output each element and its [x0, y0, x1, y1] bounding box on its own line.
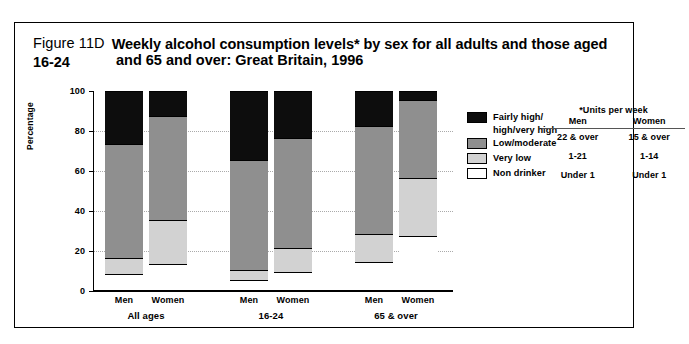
bar-segment-fairly-high — [355, 91, 393, 127]
bar-segment-fairly-high — [105, 91, 143, 145]
legend-swatch-fairly-high — [467, 112, 487, 123]
figure-heading: Figure 11DWeekly alcohol consumption lev… — [33, 35, 619, 71]
bar-segment-fairly-high — [149, 91, 187, 117]
y-tick-label: 100 — [70, 86, 85, 96]
legend-swatch-non-drinker — [467, 168, 487, 179]
y-tick-label: 80 — [75, 126, 85, 136]
units-table-rows: 22 & over15 & over1-211-14Under 1Under 1 — [542, 132, 689, 180]
legend-swatch-very-low — [467, 153, 487, 164]
x-axis-line — [93, 290, 453, 291]
bar-segment-low-moderate — [149, 117, 187, 221]
bar-segment-non-drinker — [149, 265, 187, 291]
figure-title-line2: and 65 and over: Great Britain, 1996 — [116, 52, 363, 68]
units-cell-women: Under 1 — [614, 170, 686, 180]
legend-swatch-low-moderate — [467, 138, 487, 149]
bar-segment-low-moderate — [399, 101, 437, 179]
figure-number: Figure 11D — [33, 35, 105, 51]
bar-segment-very-low — [149, 221, 187, 265]
y-tick-label: 60 — [75, 166, 85, 176]
legend-label: Very low — [493, 152, 531, 165]
legend-item-very-low: Very low — [467, 152, 531, 165]
bar-segment-non-drinker — [355, 263, 393, 291]
x-axis-group-label: All ages — [86, 310, 206, 321]
bar-segment-very-low — [399, 179, 437, 237]
legend-label: Non drinker — [493, 167, 546, 180]
x-axis-tick-label: Women — [263, 295, 323, 305]
bar-segment-low-moderate — [274, 139, 312, 249]
y-tick-label: 20 — [75, 246, 85, 256]
bar-stack — [355, 91, 393, 291]
bar-segment-fairly-high — [274, 91, 312, 139]
units-table-row: 22 & over15 & over — [542, 132, 685, 142]
bar-segment-very-low — [105, 259, 143, 275]
units-table-row: 1-211-14 — [542, 151, 685, 161]
bar-stack — [105, 91, 143, 291]
units-table-rule — [542, 128, 685, 129]
bar-segment-very-low — [230, 271, 268, 281]
bar-stack — [399, 91, 437, 291]
x-axis-group-label: 16-24 — [211, 310, 331, 321]
bar-stack — [274, 91, 312, 291]
bar-segment-fairly-high — [230, 91, 268, 161]
bar-segment-non-drinker — [105, 275, 143, 291]
units-table-row: Under 1Under 1 — [542, 170, 685, 180]
bar-segment-low-moderate — [105, 145, 143, 259]
y-tick-label: 0 — [80, 286, 85, 296]
units-column-men: Men — [542, 116, 614, 126]
bar-stack — [149, 91, 187, 291]
y-axis-ticks: 020406080100 — [61, 91, 89, 291]
legend-item-non-drinker: Non drinker — [467, 167, 546, 180]
bar-stack — [230, 91, 268, 291]
x-axis-tick-label: Women — [388, 295, 448, 305]
units-table-title: *Units per week — [542, 105, 685, 115]
units-cell-women: 1-14 — [614, 151, 686, 161]
bar-segment-low-moderate — [355, 127, 393, 235]
x-axis-tick-label: Women — [138, 295, 198, 305]
units-cell-men: 1-21 — [542, 151, 614, 161]
units-cell-women: 15 & over — [614, 132, 686, 142]
y-tick-label: 40 — [75, 206, 85, 216]
bar-segment-very-low — [274, 249, 312, 273]
bar-segment-low-moderate — [230, 161, 268, 271]
units-cell-men: Under 1 — [542, 170, 614, 180]
y-axis-line — [93, 91, 94, 291]
figure-frame: Figure 11DWeekly alcohol consumption lev… — [14, 22, 634, 328]
units-per-week-table: *Units per week Men Women 22 & over15 & … — [542, 105, 689, 189]
chart-axes — [93, 91, 453, 291]
chart-plot-area: Percentage 020406080100 MenWomenMenWomen… — [61, 91, 456, 316]
bar-segment-non-drinker — [399, 237, 437, 291]
units-table-header: Men Women — [542, 116, 685, 126]
y-axis-title: Percentage — [25, 81, 35, 171]
bar-segment-non-drinker — [274, 273, 312, 291]
units-column-women: Women — [614, 116, 686, 126]
x-axis-group-label: 65 & over — [336, 310, 456, 321]
units-cell-men: 22 & over — [542, 132, 614, 142]
bar-segment-very-low — [355, 235, 393, 263]
bar-segment-fairly-high — [399, 91, 437, 101]
